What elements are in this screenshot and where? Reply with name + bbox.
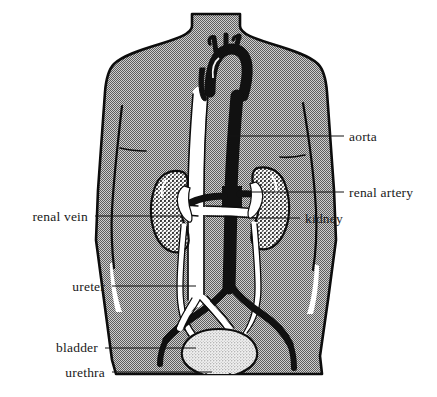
anatomy-figure: aorta renal artery kidney renal vein ure… [0, 0, 437, 397]
label-kidney: kidney [305, 211, 343, 226]
bladder-body [182, 329, 257, 377]
urethra-tube [212, 375, 224, 392]
label-aorta: aorta [349, 129, 377, 144]
anatomy-svg: aorta renal artery kidney renal vein ure… [0, 0, 437, 397]
label-bladder: bladder [56, 340, 98, 355]
label-renal-vein: renal vein [32, 209, 88, 224]
label-renal-artery: renal artery [349, 185, 413, 200]
label-ureter: ureter [72, 279, 105, 294]
bladder [182, 329, 257, 392]
brachiocephalic-branch [214, 38, 216, 52]
label-urethra: urethra [65, 365, 105, 380]
